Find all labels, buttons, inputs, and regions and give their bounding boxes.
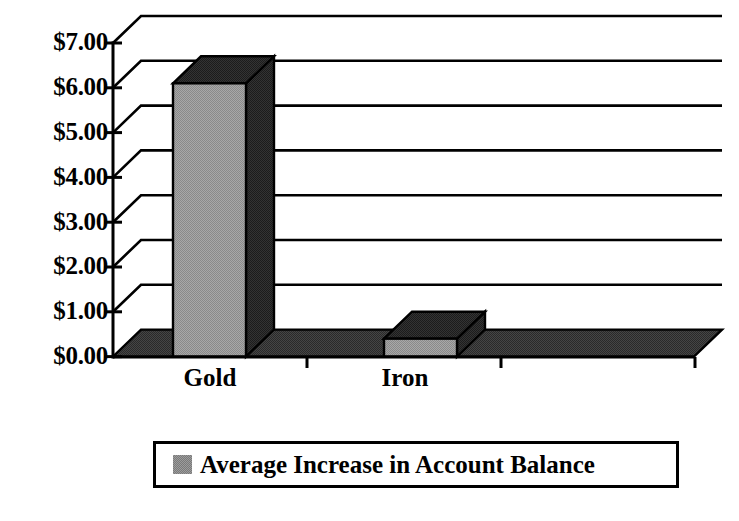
bar-gold-side [246,56,274,356]
x-axis-category-label-iron: Iron [345,364,465,392]
y-axis-tick-label: $1.00 [10,298,108,323]
chart-legend: Average Increase in Account Balance [153,441,679,488]
y-axis-tick-label: $5.00 [10,119,108,144]
y-axis-tick-label: $7.00 [10,29,108,54]
x-axis-category-label-gold: Gold [150,364,270,392]
bar-chart: $7.00 $6.00 $5.00 $4.00 $3.00 $2.00 $1.0… [0,0,739,521]
y-axis-tick-label: $2.00 [10,253,108,278]
y-axis-tick-labels: $7.00 $6.00 $5.00 $4.00 $3.00 $2.00 $1.0… [0,0,108,400]
legend-color-swatch [173,455,192,474]
bar-gold-front [173,83,246,356]
gridline-7 [113,16,722,43]
plot-area [0,0,739,420]
y-axis-tick-label: $4.00 [10,164,108,189]
y-axis-tick-label: $6.00 [10,74,108,99]
x-axis-category-labels: Gold Iron [0,364,739,398]
legend-entry-label: Average Increase in Account Balance [200,452,595,477]
y-axis-tick-label: $3.00 [10,209,108,234]
bar-iron-front [384,339,457,357]
bar-gold [173,56,274,356]
